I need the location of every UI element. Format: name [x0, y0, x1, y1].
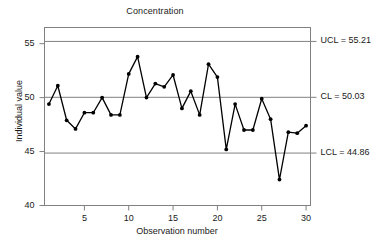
y-tick-label-55: 55: [9, 38, 35, 48]
x-tick-label-15: 15: [161, 213, 185, 223]
data-point: [224, 148, 228, 152]
data-point: [162, 85, 166, 89]
data-point: [295, 131, 299, 135]
data-point: [207, 62, 211, 66]
data-point: [127, 72, 131, 76]
plot-frame: [45, 28, 311, 206]
data-point: [198, 113, 202, 117]
data-point: [47, 102, 51, 106]
limit-label-lcl: LCL = 44.86: [321, 147, 370, 157]
y-tick-label-40: 40: [9, 200, 35, 210]
y-tick-label-45: 45: [9, 146, 35, 156]
data-point: [216, 75, 220, 79]
data-point: [145, 96, 149, 100]
data-point: [260, 97, 264, 101]
data-point: [286, 130, 290, 134]
control-chart: Concentration Individual value Observati…: [0, 0, 383, 246]
x-tick-label-30: 30: [294, 213, 318, 223]
data-point: [136, 55, 140, 59]
data-point: [180, 107, 184, 111]
data-point: [153, 82, 157, 86]
data-point: [269, 117, 273, 121]
x-tick-label-25: 25: [250, 213, 274, 223]
data-point: [74, 127, 78, 131]
data-point: [91, 111, 95, 115]
data-point: [118, 113, 122, 117]
data-point: [109, 113, 113, 117]
data-point: [65, 118, 69, 122]
data-point: [171, 73, 175, 77]
x-tick-label-5: 5: [72, 213, 96, 223]
data-point: [304, 124, 308, 128]
data-point: [56, 84, 60, 88]
y-tick-label-50: 50: [9, 92, 35, 102]
y-tick-marks: [40, 44, 45, 206]
data-point: [278, 178, 282, 182]
limit-label-cl: CL = 50.03: [321, 91, 365, 101]
limit-label-ucl: UCL = 55.21: [321, 35, 371, 45]
x-tick-label-10: 10: [117, 213, 141, 223]
data-point: [189, 89, 193, 93]
data-point: [83, 111, 87, 115]
x-tick-marks: [84, 206, 306, 211]
data-point: [100, 96, 104, 100]
data-point: [242, 128, 246, 132]
data-point: [233, 102, 237, 106]
data-point: [251, 128, 255, 132]
x-tick-label-20: 20: [205, 213, 229, 223]
